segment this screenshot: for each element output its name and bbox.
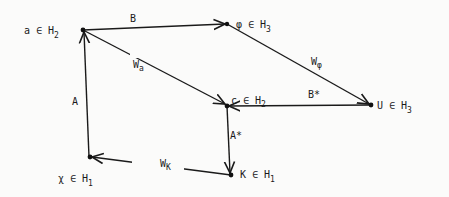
edge-W-phi: [227, 24, 369, 104]
node-a: [81, 28, 86, 33]
edge-W-a: [83, 30, 225, 104]
edge-B: [83, 24, 225, 30]
label-U: U ∈ H3: [377, 100, 412, 115]
label-c: c ∈ H2: [231, 95, 266, 109]
label-chi: χ ∈ H1: [58, 173, 93, 188]
edge-label-W-phi: Wφ: [311, 56, 322, 70]
node-chi: [88, 155, 93, 160]
commutative-diagram: a ∈ H2 φ ∈ H3 c ∈ H2 U ∈ H3 χ ∈ H1 K ∈ H…: [0, 0, 449, 197]
edge-A: [84, 32, 89, 157]
edge-label-B: B: [130, 13, 136, 24]
node-K: [229, 173, 234, 178]
edge-label-B-star: B*: [308, 89, 320, 100]
node-phi: [225, 22, 229, 26]
node-U: [369, 103, 374, 108]
edge-label-A-star: A*: [230, 130, 242, 141]
label-a: a ∈ H2: [24, 25, 59, 40]
label-K: K ∈ H1: [240, 169, 275, 184]
node-c: [225, 104, 230, 109]
edge-label-A: A: [72, 96, 78, 107]
